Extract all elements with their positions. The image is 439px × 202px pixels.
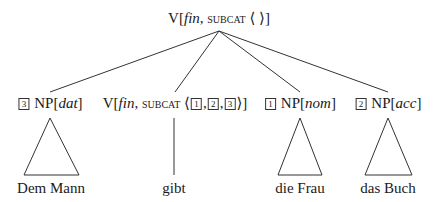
node-case: acc <box>396 95 417 111</box>
root-node: V[fin, subcat ⟨ ⟩] <box>168 10 270 27</box>
root-cat: V <box>168 10 179 26</box>
node-v: V[fin, subcat ⟨1,2,3⟩] <box>103 95 248 112</box>
triangle-np-nom <box>278 118 322 175</box>
leaf-word-gibt: gibt <box>162 180 185 196</box>
node-cat: V <box>103 95 114 111</box>
root-feat-subcat: subcat <box>207 11 245 26</box>
tag-box: 3 <box>18 98 29 110</box>
node-cat: NP <box>34 95 53 111</box>
edge-root-np-nom <box>219 31 300 92</box>
leaf-word-die-frau: die Frau <box>275 180 325 196</box>
leaf-word-dem-mann: Dem Mann <box>17 180 85 196</box>
node-case: dat <box>58 95 77 111</box>
triangle-np-dat <box>24 118 79 175</box>
node-cat: NP <box>281 95 300 111</box>
edge-root-np-dat <box>50 31 219 92</box>
list-open: ⟨ <box>184 95 190 111</box>
edge-root-v <box>175 31 219 92</box>
node-np-acc: 2 NP[acc] <box>355 95 422 111</box>
root-list: ⟨ ⟩ <box>249 10 264 26</box>
tag-box: 3 <box>224 98 235 110</box>
edge-root-np-acc <box>219 31 388 92</box>
tag-box: 1 <box>265 98 276 110</box>
tag-box: 2 <box>208 98 219 110</box>
node-feat-subcat: subcat <box>142 96 180 111</box>
triangle-np-acc <box>365 118 412 175</box>
node-np-nom: 1 NP[nom] <box>264 95 336 111</box>
tag-box: 2 <box>356 98 367 110</box>
root-feat-fin: fin <box>184 10 200 26</box>
node-cat: NP <box>371 95 390 111</box>
node-case: nom <box>305 95 331 111</box>
node-np-dat: 3 NP[dat] <box>17 95 82 111</box>
leaf-word-das-buch: das Buch <box>360 180 415 196</box>
list-close: ⟩ <box>236 95 242 111</box>
node-feat-fin: fin <box>119 95 135 111</box>
tag-box: 1 <box>191 98 202 110</box>
